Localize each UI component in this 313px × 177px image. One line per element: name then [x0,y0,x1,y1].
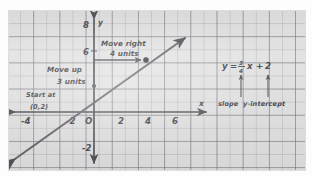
equation-x: x [246,61,253,71]
equation-group: y = 3 4 x + 2 [222,60,271,74]
equation-numerator: 3 [239,60,243,66]
graph-paper-sheet: x y -4 -2 2 4 6 O 8 6 -2 [9,11,305,170]
equation-plus: + [256,61,263,71]
annotation-layer: Move right 4 units Move up 3 units Start… [9,11,305,170]
label-y-intercept: y-intercept [243,100,286,108]
equation-constant: 2 [265,61,271,71]
note-start-line1: Start at [26,91,56,99]
note-move-up-line2: 3 units [57,77,86,86]
note-move-right-line1: Move right [101,39,146,48]
note-move-right-line2: 4 units [110,49,139,58]
note-start-line2: (0,2) [30,103,48,111]
screenshot-canvas: x y -4 -2 2 4 6 O 8 6 -2 [0,0,313,177]
note-move-up-line1: Move up [47,65,82,74]
equation-denominator: 4 [239,68,243,74]
equation-equals: = [230,61,237,71]
label-slope: slope [218,100,239,108]
equation-y: y [222,61,228,71]
